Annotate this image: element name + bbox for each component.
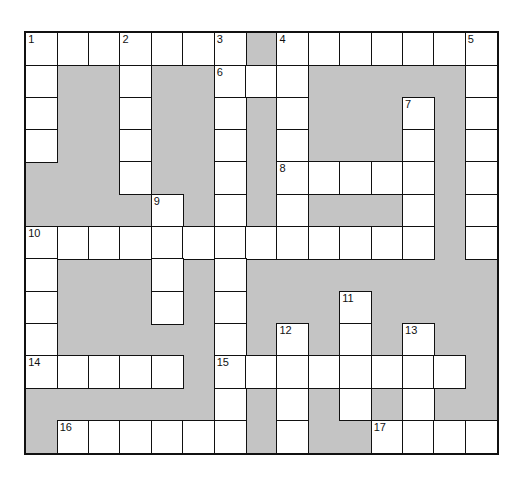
grid-cell[interactable] xyxy=(465,129,498,163)
grid-cell[interactable] xyxy=(402,32,435,66)
grid-cell[interactable]: 1 xyxy=(25,32,58,66)
grid-cell[interactable] xyxy=(402,161,435,195)
grid-cell[interactable] xyxy=(25,323,58,357)
grid-cell[interactable] xyxy=(276,355,309,389)
grid-cell[interactable] xyxy=(214,420,247,454)
grid-cell[interactable] xyxy=(339,161,372,195)
grid-cell[interactable]: 10 xyxy=(25,226,58,260)
grid-cell[interactable] xyxy=(371,355,404,389)
grid-cell[interactable]: 11 xyxy=(339,291,372,325)
grid-cell[interactable]: 16 xyxy=(57,420,90,454)
grid-cell[interactable] xyxy=(339,323,372,357)
grid-cell[interactable]: 5 xyxy=(465,32,498,66)
grid-cell[interactable] xyxy=(402,388,435,422)
grid-cell[interactable] xyxy=(339,226,372,260)
grid-cell[interactable] xyxy=(25,129,58,163)
grid-cell[interactable] xyxy=(119,129,152,163)
grid-cell[interactable] xyxy=(182,32,215,66)
grid-cell[interactable] xyxy=(119,355,152,389)
grid-cell[interactable] xyxy=(308,355,341,389)
grid-cell[interactable] xyxy=(214,258,247,292)
grid-cell[interactable] xyxy=(339,32,372,66)
grid-cell[interactable] xyxy=(119,420,152,454)
grid-cell[interactable] xyxy=(339,355,372,389)
grid-cell[interactable]: 2 xyxy=(119,32,152,66)
grid-cell[interactable] xyxy=(402,420,435,454)
grid-cell[interactable] xyxy=(371,226,404,260)
grid-cell[interactable] xyxy=(276,388,309,422)
grid-cell[interactable] xyxy=(25,291,58,325)
grid-cell[interactable] xyxy=(151,32,184,66)
grid-cell[interactable] xyxy=(25,65,58,99)
grid-cell[interactable] xyxy=(308,226,341,260)
grid-cell[interactable] xyxy=(119,97,152,131)
grid-cell[interactable] xyxy=(151,420,184,454)
grid-cell[interactable] xyxy=(57,355,90,389)
grid-cell[interactable] xyxy=(402,226,435,260)
grid-cell[interactable] xyxy=(214,129,247,163)
grid-cell[interactable] xyxy=(276,65,309,99)
grid-cell[interactable] xyxy=(465,161,498,195)
grid-cell[interactable] xyxy=(25,97,58,131)
grid-cell[interactable] xyxy=(88,355,121,389)
grid-cell[interactable] xyxy=(245,355,278,389)
grid-cell[interactable] xyxy=(371,161,404,195)
grid-cell[interactable] xyxy=(57,226,90,260)
grid-cell[interactable]: 3 xyxy=(214,32,247,66)
grid-cell[interactable] xyxy=(245,226,278,260)
grid-cell[interactable] xyxy=(371,32,404,66)
grid-cell[interactable] xyxy=(276,420,309,454)
grid-cell[interactable] xyxy=(433,32,466,66)
grid-cell[interactable] xyxy=(151,258,184,292)
grid-cell[interactable] xyxy=(308,161,341,195)
grid-cell[interactable] xyxy=(465,420,498,454)
grid-cell[interactable] xyxy=(276,129,309,163)
grid-cell[interactable]: 8 xyxy=(276,161,309,195)
grid-cell[interactable]: 12 xyxy=(276,323,309,357)
grid-cell[interactable]: 17 xyxy=(371,420,404,454)
grid-cell[interactable] xyxy=(276,97,309,131)
grid-cell[interactable]: 7 xyxy=(402,97,435,131)
grid-cell[interactable]: 15 xyxy=(214,355,247,389)
grid-cell[interactable] xyxy=(214,161,247,195)
grid-cell[interactable] xyxy=(214,97,247,131)
grid-cell[interactable] xyxy=(308,32,341,66)
grid-cell[interactable] xyxy=(151,291,184,325)
grid-cell[interactable] xyxy=(25,258,58,292)
grid-cell[interactable] xyxy=(119,226,152,260)
grid-cell[interactable] xyxy=(182,420,215,454)
grid-cell[interactable]: 6 xyxy=(214,65,247,99)
grid-cell[interactable] xyxy=(465,65,498,99)
grid-cell[interactable] xyxy=(433,420,466,454)
grid-cell[interactable] xyxy=(214,323,247,357)
grid-cell[interactable] xyxy=(433,355,466,389)
grid-cell[interactable] xyxy=(119,161,152,195)
grid-cell[interactable]: 4 xyxy=(276,32,309,66)
grid-cell[interactable] xyxy=(88,32,121,66)
grid-cell[interactable] xyxy=(214,194,247,228)
grid-cell[interactable] xyxy=(402,129,435,163)
clue-number: 10 xyxy=(28,228,40,239)
grid-cell[interactable] xyxy=(245,65,278,99)
grid-cell[interactable] xyxy=(214,388,247,422)
grid-cell[interactable] xyxy=(88,226,121,260)
grid-cell[interactable] xyxy=(214,226,247,260)
grid-cell[interactable] xyxy=(402,355,435,389)
grid-cell[interactable] xyxy=(339,388,372,422)
grid-cell[interactable] xyxy=(182,226,215,260)
grid-cell[interactable] xyxy=(276,194,309,228)
grid-cell[interactable] xyxy=(151,226,184,260)
grid-cell[interactable] xyxy=(214,291,247,325)
grid-cell[interactable] xyxy=(465,194,498,228)
grid-cell[interactable] xyxy=(88,420,121,454)
grid-cell[interactable] xyxy=(276,226,309,260)
grid-cell[interactable] xyxy=(151,355,184,389)
grid-cell[interactable]: 13 xyxy=(402,323,435,357)
grid-cell[interactable] xyxy=(119,65,152,99)
grid-cell[interactable]: 14 xyxy=(25,355,58,389)
grid-cell[interactable] xyxy=(57,32,90,66)
grid-cell[interactable] xyxy=(402,194,435,228)
grid-cell[interactable]: 9 xyxy=(151,194,184,228)
grid-cell[interactable] xyxy=(465,97,498,131)
grid-cell[interactable] xyxy=(465,226,498,260)
